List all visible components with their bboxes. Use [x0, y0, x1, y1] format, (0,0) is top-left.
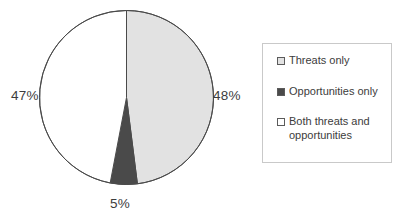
legend: Threats only Opportunities only Both thr…	[262, 43, 392, 163]
legend-swatch-icon-both-threats-and-opportunities	[277, 118, 285, 126]
pie-label-threats-only: 48%	[213, 88, 241, 103]
legend-item-threats-only[interactable]: Threats only	[277, 54, 385, 68]
pie-chart-figure: 47% 48% 5% Threats only Opportunities on…	[0, 0, 406, 223]
legend-swatch-icon-threats-only	[277, 57, 285, 65]
legend-item-both-threats-and-opportunities[interactable]: Both threats and opportunities	[277, 115, 385, 142]
pie-plot-area: 47% 48% 5%	[0, 0, 250, 223]
legend-label-threats-only: Threats only	[289, 54, 350, 68]
pie-slice-both-threats-and-opportunities[interactable]	[39, 11, 126, 183]
legend-item-opportunities-only[interactable]: Opportunities only	[277, 85, 385, 99]
pie-label-opportunities-only: 5%	[110, 196, 130, 211]
legend-label-both-threats-and-opportunities: Both threats and opportunities	[289, 115, 385, 142]
legend-swatch-icon-opportunities-only	[277, 88, 285, 96]
pie-slice-threats-only[interactable]	[127, 11, 214, 184]
pie-svg	[0, 0, 250, 223]
legend-label-opportunities-only: Opportunities only	[289, 85, 378, 99]
pie-label-both-threats-and-opportunities: 47%	[11, 88, 39, 103]
